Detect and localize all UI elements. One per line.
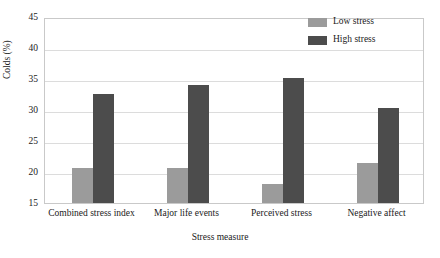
- bar-high-stress: [188, 85, 209, 203]
- x-axis-title: Stress measure: [0, 232, 440, 242]
- plot-area: Low stress High stress: [44, 18, 424, 204]
- legend-swatch-low-stress-icon: [308, 18, 327, 27]
- y-axis-tick-label: 30: [12, 106, 38, 116]
- y-axis-tick-label: 45: [12, 13, 38, 23]
- y-axis-tick-label: 35: [12, 75, 38, 85]
- legend-item-high-stress: High stress: [308, 33, 404, 47]
- legend-label-high-stress: High stress: [333, 35, 376, 45]
- bar-low-stress: [357, 163, 378, 203]
- y-axis-tick-label: 25: [12, 137, 38, 147]
- bar-high-stress: [378, 108, 399, 203]
- legend-label-low-stress: Low stress: [333, 17, 374, 27]
- legend: Low stress High stress: [308, 15, 404, 51]
- y-axis-tick-label: 20: [12, 168, 38, 178]
- legend-item-low-stress: Low stress: [308, 15, 404, 29]
- y-axis-title: Colds (%): [2, 65, 12, 79]
- bar-low-stress: [72, 168, 93, 203]
- y-axis-tick-label: 40: [12, 44, 38, 54]
- x-axis-tick-label: Negative affect: [307, 209, 440, 219]
- legend-swatch-high-stress-icon: [308, 36, 327, 45]
- bar-chart: Colds (%) 15202530354045 Low stress High…: [0, 0, 440, 258]
- bar-low-stress: [262, 184, 283, 203]
- gridline: [45, 81, 423, 82]
- bar-low-stress: [167, 168, 188, 203]
- y-axis-tick-label: 15: [12, 199, 38, 209]
- bar-high-stress: [283, 78, 304, 203]
- bar-high-stress: [93, 94, 114, 203]
